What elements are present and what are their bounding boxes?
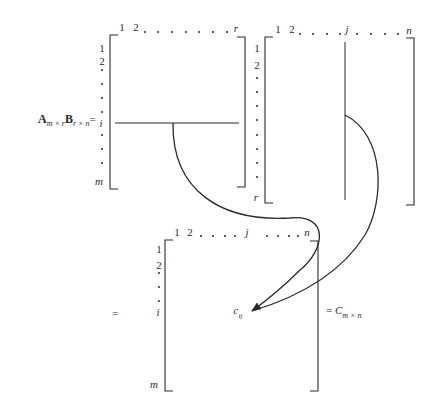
- matrix-b-col-dot: [397, 33, 399, 35]
- lhs-equals: =: [90, 113, 96, 125]
- rhs-equals: =: [326, 304, 335, 316]
- matrix-b-row-label-1: 1: [254, 43, 260, 54]
- lhs-product-expression: Am × rBr × n=: [38, 112, 96, 128]
- matrix-c-col-label-2: 2: [187, 227, 193, 238]
- matrix-a-row-dot: [101, 83, 103, 85]
- matrix-b-row-dot: [256, 134, 258, 136]
- matrix-a-col-dot: [198, 31, 200, 33]
- matrix-c-row-dot: [158, 286, 160, 288]
- matrix-b-col-dot: [370, 33, 372, 35]
- matrix-b-symbol: B: [65, 112, 73, 126]
- matrix-c-col-label-j: j: [245, 227, 248, 238]
- matrix-a-brackets: [110, 35, 245, 189]
- matrix-c-dimension: m × n: [342, 311, 361, 320]
- matrix-b-row-dot: [256, 91, 258, 93]
- matrix-c-col-dot: [212, 235, 214, 237]
- matrix-c-row-label-2: 2: [156, 260, 162, 271]
- matrix-b-col-dot: [326, 33, 328, 35]
- matrix-a-row-label-1: 1: [99, 43, 105, 54]
- matrix-c-col-dot: [297, 235, 299, 237]
- matrix-a-col-dot: [185, 31, 187, 33]
- matrix-a-row-dot: [101, 162, 103, 164]
- matrix-b-col-label-n: n: [406, 25, 412, 36]
- column-to-element-arrow: [252, 115, 378, 311]
- matrix-b-dimension: r × n: [73, 119, 90, 128]
- matrix-a-row-dot: [101, 148, 103, 150]
- matrix-a-col-dot: [144, 31, 146, 33]
- matrix-c-row-label-m: m: [150, 379, 158, 390]
- row-to-element-arrow: [173, 123, 319, 311]
- matrix-c-col-dot: [266, 235, 268, 237]
- matrix-b-row-dot: [256, 77, 258, 79]
- matrix-a-col-dot: [226, 31, 228, 33]
- matrix-c-row-label-1: 1: [156, 244, 162, 255]
- matrix-b-row-dot: [256, 176, 258, 178]
- matrix-a-row-label-i: i: [99, 118, 102, 129]
- matrix-a-row-dot: [101, 111, 103, 113]
- matrix-a-row-label-m: m: [95, 176, 103, 187]
- matrix-c-col-dot: [277, 235, 279, 237]
- matrix-a-col-dot: [171, 31, 173, 33]
- matrix-a-col-label-2: 2: [133, 22, 139, 33]
- matrix-b-row-dot: [256, 162, 258, 164]
- matrix-c-col-dot: [288, 235, 290, 237]
- matrix-a-col-dot: [212, 31, 214, 33]
- matrix-a-row-dot: [101, 69, 103, 71]
- middle-equals: =: [112, 307, 118, 319]
- matrix-a-symbol: A: [38, 112, 47, 126]
- matrix-a-row-dot: [101, 134, 103, 136]
- matrix-b-row-label-r: r: [254, 192, 258, 203]
- matrix-c-row-dot: [158, 272, 160, 274]
- matrix-b-col-dot: [384, 33, 386, 35]
- matrix-b-col-dot: [356, 33, 358, 35]
- matrix-b-col-label-1: 1: [275, 24, 281, 35]
- matrix-b-col-dot: [312, 33, 314, 35]
- matrix-b-brackets: [265, 37, 414, 205]
- matrix-b-row-dot: [256, 148, 258, 150]
- matrix-b-col-label-j: j: [345, 24, 348, 35]
- matrix-c-col-dot: [200, 235, 202, 237]
- matrix-b-row-label-2: 2: [254, 60, 260, 71]
- matrix-c-col-dot: [224, 235, 226, 237]
- matrix-c-row-dot: [158, 300, 160, 302]
- matrix-b-col-label-2: 2: [289, 24, 295, 35]
- matrix-a-dimension: m × r: [47, 119, 65, 128]
- matrix-c-col-label-n: n: [304, 227, 310, 238]
- matrix-a-row-label-2: 2: [99, 56, 105, 67]
- matrix-a-col-dot: [157, 31, 159, 33]
- matrix-c-col-dot: [234, 235, 236, 237]
- matrix-b-col-dot: [339, 33, 341, 35]
- rhs-result-expression: = Cm × n: [326, 304, 362, 319]
- matrix-a-row-dot: [101, 97, 103, 99]
- matrix-multiplication-diagram: Am × rBr × n= 1 2 r 1 2 i m 1 2 j n 1 2 …: [0, 0, 433, 413]
- matrix-b-row-dot: [256, 105, 258, 107]
- matrix-a-col-label-r: r: [234, 23, 238, 34]
- matrix-b-row-dot: [256, 119, 258, 121]
- matrix-c-col-label-1: 1: [174, 227, 180, 238]
- matrix-c-element-cij: cij: [234, 304, 243, 319]
- matrix-b-col-dot: [299, 33, 301, 35]
- matrix-c-row-label-i: i: [156, 307, 159, 318]
- matrix-a-col-label-1: 1: [119, 22, 125, 33]
- diagram-lines: [0, 0, 433, 413]
